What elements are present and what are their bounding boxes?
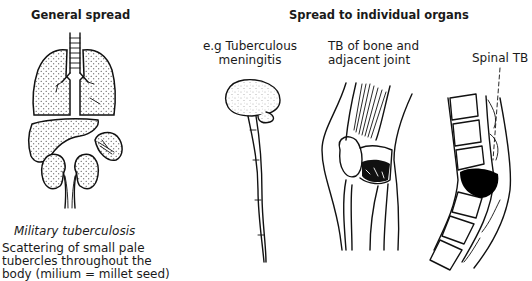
- spine-vertebrae-icon: [0, 0, 532, 281]
